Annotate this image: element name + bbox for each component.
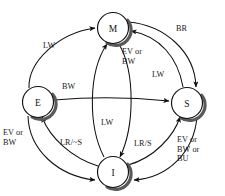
edge-label-evbw-e-to-i: EV or BW [3,128,23,147]
state-node-i-label: I [111,168,114,178]
state-diagram-svg: M E S I [0,0,225,196]
state-node-m-label: M [109,24,118,34]
edge-i-to-m [92,44,107,157]
edge-label-bw-e-to-s: BW [62,82,75,92]
edge-e-to-i [28,116,95,180]
edge-e-to-m [29,28,95,88]
edge-label-lw-s-to-m: LW [152,70,164,80]
edge-label-lw-m-to-i: LW [101,118,113,128]
edge-label-br-m-to-s: BR [176,24,187,34]
edge-label-lrns-i-to-e: LR/~S [60,138,82,148]
edge-label-lw-e-to-m: LW [43,41,55,51]
edge-e-to-s [54,98,169,101]
state-node-s-label: S [184,99,189,109]
edge-label-lrs-i-to-s: LR/S [134,139,152,149]
edge-label-evbw-s-to-m: EV or BW [122,47,142,66]
edge-label-evbwbu-s-to-i: EV or BW or BU [177,135,199,164]
state-node-e-label: E [35,98,41,108]
diagram-canvas: M E S I LW BR EV or BW LW BW LW EV or BW… [0,0,225,196]
